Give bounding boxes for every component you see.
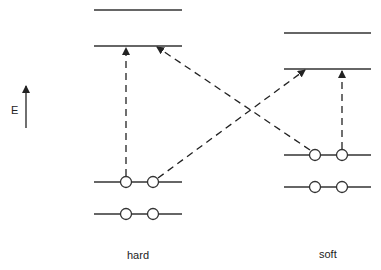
electron (310, 182, 321, 193)
arrow-soft-to-hard (157, 47, 310, 150)
soft-levels (284, 33, 371, 187)
hard-levels (94, 10, 182, 214)
soft-label: soft (319, 248, 337, 260)
electrons (121, 150, 348, 220)
electron (337, 182, 348, 193)
arrow-hard-to-soft (158, 70, 305, 178)
electron (121, 209, 132, 220)
electron (148, 209, 159, 220)
energy-axis-label: E (11, 104, 18, 116)
electron (121, 177, 132, 188)
transitions (126, 47, 342, 178)
electron (310, 150, 321, 161)
electron (148, 177, 159, 188)
hard-label: hard (127, 249, 149, 261)
energy-level-diagram (0, 0, 381, 270)
electron (337, 150, 348, 161)
